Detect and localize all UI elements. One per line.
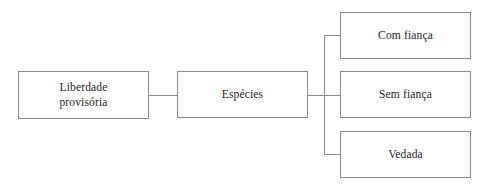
node-label: Vedada [384, 147, 427, 162]
node-especies[interactable]: Espécies [177, 71, 308, 118]
connector-stub-com-fianca [324, 35, 341, 36]
connector-root-to-especies [149, 95, 178, 96]
diagram-canvas: Liberdade provisória Espécies Com fiança… [0, 0, 488, 189]
node-sem-fianca[interactable]: Sem fiança [340, 71, 471, 118]
connector-stub-vedada [324, 154, 341, 155]
node-liberdade-provisoria[interactable]: Liberdade provisória [18, 71, 149, 119]
node-label: Espécies [218, 87, 267, 102]
connector-stub-sem-fianca [324, 95, 341, 96]
connector-especies-to-trunk [308, 95, 325, 96]
node-com-fianca[interactable]: Com fiança [340, 12, 471, 59]
node-label: Com fiança [374, 28, 437, 43]
node-vedada[interactable]: Vedada [340, 131, 471, 178]
node-label: Sem fiança [375, 87, 436, 102]
node-label: Liberdade provisória [55, 80, 111, 110]
